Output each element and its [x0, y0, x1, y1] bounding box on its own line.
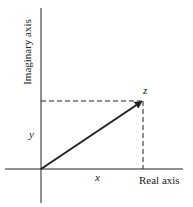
imaginary-axis-label: Imaginary axis	[21, 19, 33, 85]
complex-plane-diagram: z y x Real axis Imaginary axis	[0, 0, 193, 207]
x-component-label: x	[94, 171, 100, 183]
real-axis-label: Real axis	[139, 174, 180, 186]
y-component-label: y	[28, 128, 34, 140]
point-z-label: z	[142, 84, 148, 96]
vector-arrow	[41, 102, 141, 169]
